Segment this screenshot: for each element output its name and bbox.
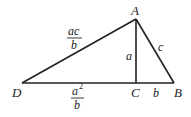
point-label-B: B (174, 85, 182, 100)
side-label-c: c (158, 40, 164, 54)
fraction-denominator: b (74, 98, 80, 112)
fraction-numerator: a (72, 84, 78, 98)
fraction-a2-over-b: a 2 b (71, 82, 84, 112)
segment-AB (136, 19, 174, 83)
triangle-diagram: A D C B a c b ac b a 2 b (0, 0, 191, 117)
point-label-A: A (130, 3, 139, 18)
fraction-exponent: 2 (79, 82, 83, 91)
fraction-denominator: b (71, 38, 77, 52)
fraction-ac-over-b: ac b (67, 24, 82, 52)
point-label-C: C (131, 85, 140, 100)
side-label-b: b (153, 86, 159, 100)
point-label-D: D (11, 85, 22, 100)
fraction-numerator: ac (68, 24, 80, 38)
side-label-a: a (126, 49, 132, 63)
